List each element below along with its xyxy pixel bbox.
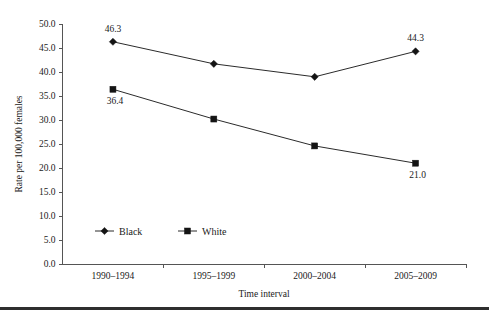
x-tick-label-group: 1990–19941995–19992000–20042005–2009 — [92, 271, 438, 281]
marker-white-3 — [413, 160, 419, 166]
y-tick-label-group: 0.05.010.015.020.025.030.035.040.045.050… — [39, 19, 56, 269]
figure-container: 0.05.010.015.020.025.030.035.040.045.050… — [0, 0, 489, 322]
marker-white-1 — [211, 116, 217, 122]
y-tick-label: 5.0 — [44, 235, 56, 245]
marker-white-0 — [110, 86, 116, 92]
marker-black-2 — [311, 73, 318, 80]
marker-white-2 — [312, 143, 318, 149]
series-line-group — [113, 42, 416, 163]
y-tick-label: 0.0 — [44, 259, 56, 269]
y-tick-label: 40.0 — [39, 67, 56, 77]
y-tick-label: 45.0 — [39, 43, 56, 53]
y-tick-label: 50.0 — [39, 19, 56, 29]
bottom-divider-rule — [0, 307, 489, 310]
marker-black-0 — [109, 38, 116, 45]
y-tick-label: 10.0 — [39, 211, 56, 221]
y-tick-label: 25.0 — [39, 139, 56, 149]
data-label-black-3: 44.3 — [407, 33, 424, 43]
x-tick-label: 1990–1994 — [92, 271, 135, 281]
series-line-white — [113, 89, 416, 163]
y-tick-group — [59, 24, 63, 264]
data-label-white-0: 36.4 — [107, 96, 124, 106]
x-axis-title: Time interval — [238, 289, 289, 299]
y-tick-label: 15.0 — [39, 187, 56, 197]
legend-marker-white — [185, 228, 191, 234]
x-tick-label: 2000–2004 — [293, 271, 336, 281]
chart-legend: BlackWhite — [95, 226, 227, 237]
marker-black-1 — [210, 60, 217, 67]
legend-marker-black — [101, 227, 108, 234]
y-tick-label: 30.0 — [39, 115, 56, 125]
data-label-white-3: 21.0 — [409, 170, 426, 180]
series-line-black — [113, 42, 416, 77]
y-axis-title: Rate per 100,000 females — [14, 95, 24, 192]
y-tick-label: 35.0 — [39, 91, 56, 101]
y-tick-label: 20.0 — [39, 163, 56, 173]
x-tick-label: 1995–1999 — [192, 271, 235, 281]
legend-label-black: Black — [119, 226, 142, 237]
data-label-black-0: 46.3 — [105, 24, 122, 34]
line-chart: 0.05.010.015.020.025.030.035.040.045.050… — [0, 0, 489, 322]
x-tick-label: 2005–2009 — [394, 271, 437, 281]
legend-label-white: White — [202, 226, 227, 237]
marker-black-3 — [412, 48, 419, 55]
